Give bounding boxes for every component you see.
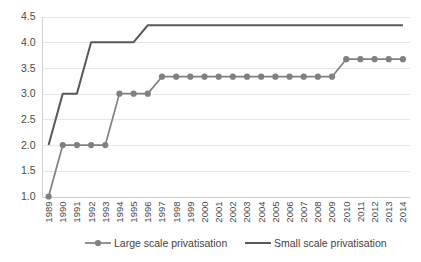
data-point-marker: [187, 74, 193, 80]
x-tick-label: 2014: [397, 202, 408, 223]
x-tick-label: 2008: [312, 202, 323, 223]
x-tick-label: 2012: [369, 202, 380, 223]
y-tick-label: 1.5: [21, 164, 36, 176]
x-tick-label: 1996: [142, 202, 153, 223]
data-point-marker: [371, 56, 377, 62]
plot-area: 4.54.03.53.02.52.01.51.0 198919901991199…: [0, 0, 421, 262]
data-point-marker: [272, 74, 278, 80]
y-tick-label: 3.0: [21, 87, 36, 99]
y-tick-label: 3.5: [21, 62, 36, 74]
x-tick-label: 1999: [185, 202, 196, 223]
data-point-marker: [173, 74, 179, 80]
x-tick-label: 1994: [114, 202, 125, 223]
data-series: [45, 25, 406, 199]
data-point-marker: [386, 56, 392, 62]
x-tick-label: 2003: [241, 202, 252, 223]
y-tick-label: 4.0: [21, 36, 36, 48]
data-point-marker: [88, 142, 94, 148]
data-point-marker: [286, 74, 292, 80]
data-point-marker: [357, 56, 363, 62]
legend-label: Large scale privatisation: [114, 237, 227, 249]
x-tick-label: 2007: [298, 202, 309, 223]
legend-item-large-scale-privatisation[interactable]: Large scale privatisation: [85, 237, 227, 249]
y-tick-label: 4.5: [21, 10, 36, 22]
data-point-marker: [329, 74, 335, 80]
data-point-marker: [343, 56, 349, 62]
x-tick-label: 1989: [43, 202, 54, 223]
data-point-marker: [315, 74, 321, 80]
x-tick-label: 2006: [284, 202, 295, 223]
data-point-marker: [301, 74, 307, 80]
series-large-scale-privatisation: [45, 56, 406, 200]
data-point-marker: [145, 91, 151, 97]
series-small-scale-privatisation: [49, 25, 403, 145]
x-tick-label: 2009: [326, 202, 337, 223]
legend-marker-icon: [95, 240, 101, 246]
data-point-marker: [60, 142, 66, 148]
y-tick-label: 1.0: [21, 190, 36, 202]
x-tick-label: 1991: [71, 202, 82, 223]
x-tick-label: 1995: [128, 202, 139, 223]
data-point-marker: [74, 142, 80, 148]
data-point-marker: [244, 74, 250, 80]
data-point-marker: [230, 74, 236, 80]
chart-container: 4.54.03.53.02.52.01.51.0 198919901991199…: [0, 0, 421, 262]
x-tick-label: 1992: [86, 202, 97, 223]
data-point-marker: [159, 74, 165, 80]
chart-legend[interactable]: Large scale privatisationSmall scale pri…: [85, 237, 387, 249]
data-point-marker: [131, 91, 137, 97]
x-tick-label: 2005: [270, 202, 281, 223]
data-point-marker: [216, 74, 222, 80]
x-tick-label: 2000: [199, 202, 210, 223]
data-point-marker: [45, 193, 51, 199]
x-tick-label: 1993: [100, 202, 111, 223]
y-axis-tick-labels: 4.54.03.53.02.52.01.51.0: [21, 10, 36, 202]
y-tick-label: 2.5: [21, 113, 36, 125]
x-tick-label: 2002: [227, 202, 238, 223]
gridlines: [42, 18, 411, 198]
y-tick-label: 2.0: [21, 139, 36, 151]
legend-item-small-scale-privatisation[interactable]: Small scale privatisation: [245, 237, 387, 249]
x-tick-label: 2004: [256, 202, 267, 223]
data-point-marker: [116, 91, 122, 97]
data-point-marker: [201, 74, 207, 80]
x-tick-label: 1990: [57, 202, 68, 223]
x-tick-label: 2001: [213, 202, 224, 223]
x-tick-label: 1998: [171, 202, 182, 223]
legend-label: Small scale privatisation: [274, 237, 387, 249]
data-point-marker: [258, 74, 264, 80]
line-chart-svg: 4.54.03.53.02.52.01.51.0 198919901991199…: [0, 0, 421, 262]
series-line: [49, 25, 403, 145]
data-point-marker: [400, 56, 406, 62]
axis-lines: [42, 17, 411, 198]
x-tick-label: 2013: [383, 202, 394, 223]
x-axis-tick-labels: 1989199019911992199319941995199619971998…: [43, 202, 408, 223]
x-tick-label: 2010: [341, 202, 352, 223]
x-tick-label: 2011: [355, 202, 366, 222]
series-line: [49, 59, 403, 196]
data-point-marker: [102, 142, 108, 148]
x-tick-label: 1997: [156, 202, 167, 223]
